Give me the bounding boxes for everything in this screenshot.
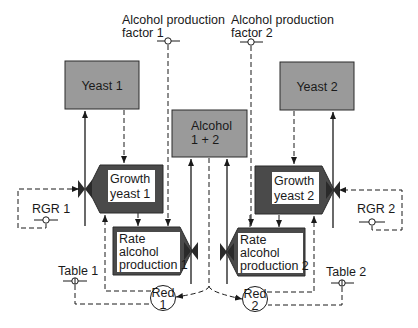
info-alcohol-to-red2 — [209, 286, 242, 299]
auxiliary-red-1: Red 1 — [151, 286, 176, 313]
info-alcohol-to-red1 — [176, 158, 209, 297]
apf1-label-line2: factor 1 — [122, 26, 164, 40]
parameter-alcohol-production-factor-2: Alcohol production factor 2 — [231, 13, 334, 45]
rgr2-parameter-circle-icon — [369, 219, 375, 225]
parameter-rgr-1: RGR 1 — [18, 189, 79, 228]
growth1-label-line2: yeast 1 — [110, 187, 150, 201]
growth1-label-line1: Growth — [110, 172, 150, 186]
rate-growth-yeast-2: Growth yeast 2 — [255, 166, 340, 214]
rap2-label-line1: Rate — [240, 233, 266, 247]
red2-label-line2: 2 — [252, 299, 259, 313]
info-table2-to-red2 — [268, 287, 342, 305]
rgr1-label: RGR 1 — [32, 202, 70, 216]
rap1-label-line3: production 1 — [119, 258, 188, 272]
rap1-label-line1: Rate — [119, 232, 145, 246]
parameter-alcohol-production-factor-1: Alcohol production factor 1 — [122, 13, 225, 44]
state-alcohol: Alcohol 1 + 2 — [172, 110, 247, 157]
rap2-label-line2: alcohol — [240, 246, 280, 260]
apf2-label-line1: Alcohol production — [231, 13, 334, 27]
alcohol-label-line1: Alcohol — [191, 119, 232, 133]
alcohol-label-line2: 1 + 2 — [191, 133, 219, 147]
yeast2-label: Yeast 2 — [296, 80, 337, 94]
rgr1-parameter-circle-icon — [43, 217, 49, 223]
red1-label-line2: 1 — [160, 298, 167, 312]
rap1-label-line2: alcohol — [119, 245, 159, 259]
rate-alcohol-production-2: Rate alcohol production 2 — [220, 228, 309, 276]
table1-label: Table 1 — [58, 264, 98, 278]
rap2-label-line3: production 2 — [240, 259, 309, 273]
rgr2-label: RGR 2 — [357, 202, 395, 216]
yeast1-label: Yeast 1 — [81, 79, 122, 93]
auxiliary-red-2: Red 2 — [243, 287, 268, 314]
apf1-label-line1: Alcohol production — [122, 13, 225, 27]
growth2-label-line1: Growth — [274, 174, 314, 188]
apf2-parameter-circle-icon — [248, 39, 254, 45]
apf1-parameter-circle-icon — [165, 38, 171, 44]
table2-label: Table 2 — [326, 265, 366, 279]
state-yeast-2: Yeast 2 — [280, 62, 354, 110]
rate-growth-yeast-1: Growth yeast 1 — [78, 165, 163, 213]
info-table1-to-red1 — [75, 285, 150, 304]
state-yeast-1: Yeast 1 — [65, 61, 139, 109]
parameter-rgr-2: RGR 2 — [339, 190, 402, 230]
relational-diagram: Alcohol production factor 1 Alcohol prod… — [0, 0, 418, 328]
growth2-label-line2: yeast 2 — [274, 189, 314, 203]
rate-alcohol-production-1: Rate alcohol production 1 — [113, 227, 198, 275]
apf2-label-line2: factor 2 — [231, 26, 273, 40]
